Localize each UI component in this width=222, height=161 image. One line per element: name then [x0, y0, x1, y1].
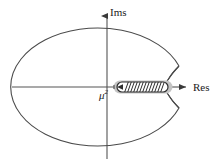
keyhole-upper-lip — [167, 66, 179, 81]
contour-diagram-svg — [0, 0, 222, 161]
branch-point-exponent: 2 — [105, 88, 109, 96]
complex-plane-contour-figure: Ims Res μ2 — [0, 0, 222, 161]
keyhole-lower-lip — [167, 93, 179, 108]
real-axis-label: Res — [193, 81, 210, 93]
imaginary-axis-label: Ims — [110, 6, 127, 18]
branch-point-label: μ2 — [99, 88, 108, 101]
